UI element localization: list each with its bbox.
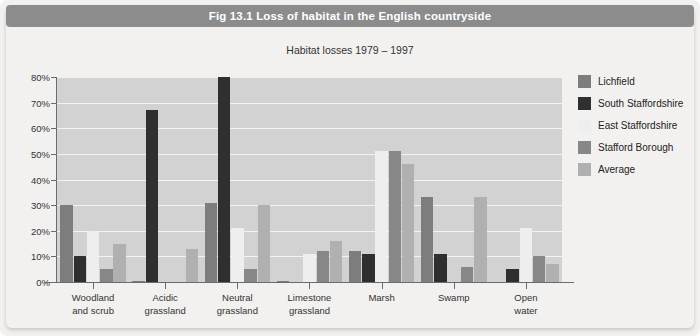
category-tick: [165, 282, 166, 289]
bar[interactable]: [231, 228, 244, 282]
bar-group: [346, 77, 418, 282]
figure-card: Fig 13.1 Loss of habitat in the English …: [0, 0, 700, 336]
y-tick-label: 60%: [16, 123, 50, 134]
bar[interactable]: [506, 269, 519, 282]
bar-group: [201, 77, 273, 282]
bar-group: [273, 77, 345, 282]
bar[interactable]: [461, 267, 474, 282]
legend-label: Lichfield: [598, 76, 635, 87]
y-tick-label: 80%: [16, 72, 50, 83]
category-label: Openwater: [490, 290, 562, 330]
category-tick-cell: [57, 282, 129, 289]
legend-item[interactable]: South Staffordshire: [578, 92, 698, 114]
category-tick: [454, 282, 455, 289]
y-tick-mark: [51, 77, 56, 78]
category-label-line: grassland: [273, 305, 345, 318]
legend-swatch: [578, 97, 591, 110]
bar[interactable]: [362, 254, 375, 282]
y-tick-label: 50%: [16, 148, 50, 159]
bar[interactable]: [349, 251, 362, 282]
figure-title: Fig 13.1 Loss of habitat in the English …: [209, 10, 491, 22]
bar[interactable]: [434, 254, 447, 282]
bar[interactable]: [205, 203, 218, 282]
category-tick-cell: [129, 282, 201, 289]
bar[interactable]: [375, 151, 388, 282]
bar[interactable]: [87, 231, 100, 282]
legend-item[interactable]: Lichfield: [578, 70, 698, 92]
category-label-line: Woodland: [57, 292, 129, 305]
category-tick: [382, 282, 383, 289]
bar[interactable]: [303, 254, 316, 282]
y-tick-mark: [51, 180, 56, 181]
y-tick-mark: [51, 128, 56, 129]
bar[interactable]: [74, 256, 87, 282]
bar[interactable]: [258, 205, 271, 282]
bar[interactable]: [546, 264, 559, 282]
bar[interactable]: [186, 249, 199, 282]
legend-label: East Staffordshire: [598, 120, 677, 131]
category-label-line: Limestone: [273, 292, 345, 305]
category-tick: [526, 282, 527, 289]
bar[interactable]: [402, 164, 415, 282]
legend-item[interactable]: East Staffordshire: [578, 114, 698, 136]
bar[interactable]: [421, 197, 434, 282]
bar[interactable]: [60, 205, 73, 282]
bar[interactable]: [474, 197, 487, 282]
category-label: Marsh: [346, 290, 418, 330]
legend-item[interactable]: Stafford Borough: [578, 136, 698, 158]
bar[interactable]: [146, 110, 159, 282]
category-tick-cell: [273, 282, 345, 289]
category-label: Neutralgrassland: [201, 290, 273, 330]
category-tick: [93, 282, 94, 289]
legend-swatch: [578, 119, 591, 132]
chart-legend: LichfieldSouth StaffordshireEast Staffor…: [578, 70, 698, 180]
category-label-line: Marsh: [346, 292, 418, 305]
legend-label: South Staffordshire: [598, 98, 683, 109]
category-tick-cell: [201, 282, 273, 289]
category-tick: [309, 282, 310, 289]
legend-label: Stafford Borough: [598, 142, 673, 153]
legend-item[interactable]: Average: [578, 158, 698, 180]
bar[interactable]: [100, 269, 113, 282]
bar[interactable]: [244, 269, 257, 282]
bar[interactable]: [533, 256, 546, 282]
category-label-line: grassland: [201, 305, 273, 318]
bar[interactable]: [520, 228, 533, 282]
category-label-line: water: [490, 305, 562, 318]
bar[interactable]: [330, 241, 343, 282]
category-tick-cell: [346, 282, 418, 289]
category-label-line: Swamp: [418, 292, 490, 305]
category-label-line: Open: [490, 292, 562, 305]
category-label: Limestonegrassland: [273, 290, 345, 330]
category-ticks: [57, 282, 562, 289]
y-tick-mark: [51, 103, 56, 104]
legend-label: Average: [598, 164, 635, 175]
category-label-line: and scrub: [57, 305, 129, 318]
category-label: Swamp: [418, 290, 490, 330]
bar-group: [129, 77, 201, 282]
category-label-line: Acidic: [129, 292, 201, 305]
bar-group: [418, 77, 490, 282]
category-label-line: Neutral: [201, 292, 273, 305]
y-tick-mark: [51, 231, 56, 232]
legend-swatch: [578, 141, 591, 154]
y-tick-label: 30%: [16, 200, 50, 211]
y-axis-labels: 0%10%20%30%40%50%60%70%80%: [10, 0, 50, 336]
plot-area: [57, 77, 562, 282]
chart-subtitle: Habitat losses 1979 – 1997: [0, 44, 700, 56]
category-label: Woodlandand scrub: [57, 290, 129, 330]
bar-groups: [57, 77, 562, 282]
legend-swatch: [578, 163, 591, 176]
y-tick-label: 10%: [16, 251, 50, 262]
y-tick-mark: [51, 205, 56, 206]
bar[interactable]: [113, 244, 126, 282]
bar[interactable]: [218, 77, 231, 282]
bar[interactable]: [317, 251, 330, 282]
category-tick-cell: [418, 282, 490, 289]
legend-swatch: [578, 75, 591, 88]
y-tick-mark: [51, 256, 56, 257]
category-tick-cell: [490, 282, 562, 289]
bar[interactable]: [389, 151, 402, 282]
category-label-line: grassland: [129, 305, 201, 318]
figure-title-bar: Fig 13.1 Loss of habitat in the English …: [6, 5, 694, 27]
